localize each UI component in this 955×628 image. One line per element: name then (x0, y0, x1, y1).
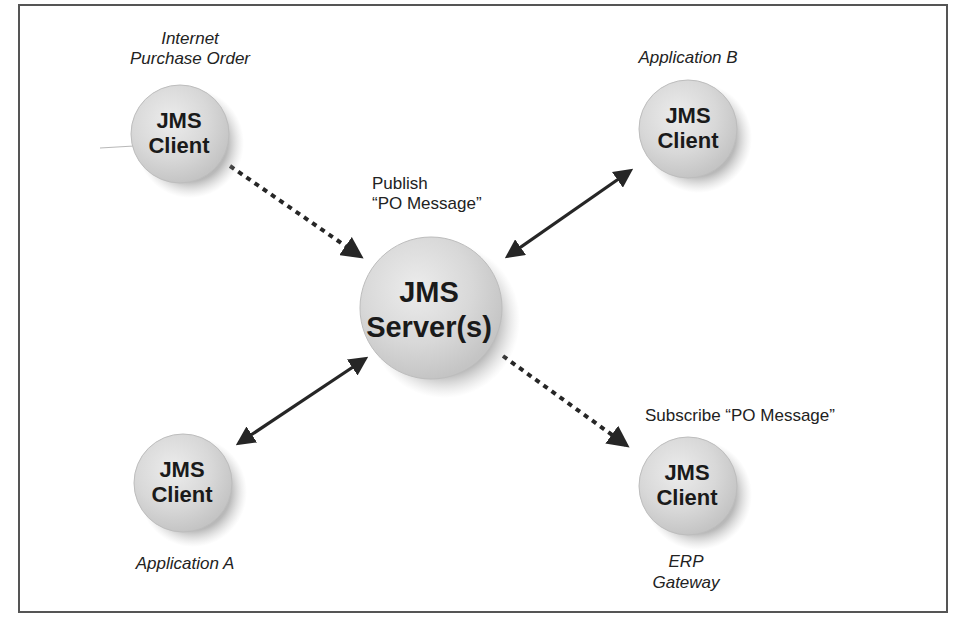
edge-internet-to-server (230, 166, 360, 256)
client-label-line1: JMS (159, 457, 204, 482)
double-arrow-app-a (239, 359, 365, 443)
edge-server-appa (239, 359, 365, 443)
client-label-line2: Client (657, 128, 719, 153)
server-circle (360, 237, 502, 379)
node-app-a-client: JMS Client (134, 434, 247, 547)
annotation-publish-line1: Publish (372, 174, 428, 193)
client-label-line1: JMS (664, 460, 709, 485)
caption-internet: Internet (161, 29, 220, 48)
dotted-arrow-publish (230, 166, 360, 256)
client-label-line2: Client (151, 482, 213, 507)
caption-purchase-order: Purchase Order (130, 49, 251, 68)
client-label-line1: JMS (665, 103, 710, 128)
caption-gateway: Gateway (652, 573, 721, 592)
node-app-b-client: JMS Client (639, 80, 752, 193)
client-label-line2: Client (148, 133, 210, 158)
double-arrow-app-b (508, 171, 630, 256)
dotted-arrow-subscribe (503, 356, 626, 445)
server-label-line1: JMS (399, 276, 459, 308)
edge-server-to-erp (503, 356, 626, 445)
node-jms-server: JMS Server(s) (360, 237, 520, 398)
caption-application-a: Application A (135, 554, 235, 573)
server-label-line2: Server(s) (366, 311, 492, 343)
client-label-line1: JMS (156, 108, 201, 133)
caption-application-b: Application B (637, 48, 737, 67)
node-internet-client: JMS Client (131, 85, 244, 198)
caption-erp: ERP (669, 552, 705, 571)
jms-pubsub-diagram: JMS Server(s) JMS Client Internet Purcha… (0, 0, 955, 628)
edge-server-appb (508, 171, 630, 256)
client-label-line2: Client (656, 485, 718, 510)
stray-line (100, 146, 134, 148)
annotation-publish-line2: “PO Message” (372, 194, 482, 213)
node-erp-client: JMS Client (639, 437, 752, 550)
annotation-subscribe: Subscribe “PO Message” (645, 406, 835, 425)
